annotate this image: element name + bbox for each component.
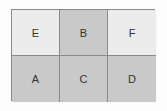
cell-e: E [12,10,60,56]
cell-label: D [128,73,136,85]
cell-label: B [80,27,87,39]
cell-b: B [60,10,108,56]
cell-label: C [80,73,88,85]
cell-c: C [60,56,108,102]
cell-grid: E B F A C D [11,9,155,101]
cell-d: D [108,56,156,102]
cell-label: E [32,27,39,39]
cell-a: A [12,56,60,102]
cell-label: F [129,27,136,39]
cell-label: A [32,73,39,85]
cell-f: F [108,10,156,56]
